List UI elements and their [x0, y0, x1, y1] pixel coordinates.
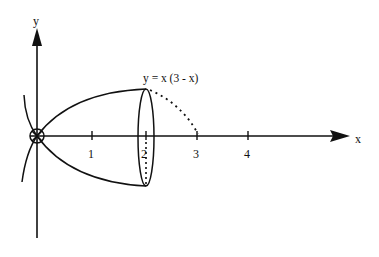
x-axis-label: x — [355, 132, 361, 146]
curve-equation-label: y = x (3 - x) — [143, 72, 199, 85]
solid-of-revolution-diagram: y x 1 2 3 4 y = x (3 - x) — [0, 0, 379, 257]
upper-surface-curve — [37, 89, 146, 136]
tick-label-3: 3 — [193, 147, 199, 161]
y-axis-label: y — [33, 14, 39, 28]
parabola-left-branch — [22, 95, 37, 182]
x-axis: x — [30, 130, 361, 146]
tick-label-4: 4 — [244, 147, 250, 161]
y-axis-arrow-icon — [32, 28, 42, 46]
lower-surface-curve — [37, 136, 146, 186]
parabola-dotted-continuation — [150, 90, 198, 134]
tick-label-1: 1 — [88, 147, 94, 161]
y-axis: y — [32, 14, 42, 238]
x-axis-arrow-icon — [330, 130, 350, 142]
